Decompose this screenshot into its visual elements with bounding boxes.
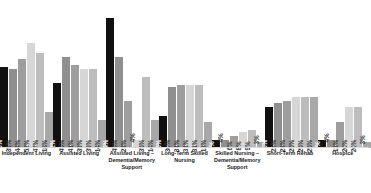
bar[interactable]: 47% [36, 53, 44, 148]
bar[interactable]: 41% [71, 65, 79, 148]
bar-group: 4%4%6%8%9%3% [212, 6, 265, 148]
bar[interactable]: 45% [115, 57, 123, 148]
bar-slot: 35% [142, 6, 150, 148]
bar-slot: 39% [9, 6, 17, 148]
bar[interactable]: 39% [89, 69, 97, 148]
bar[interactable]: 35% [142, 77, 150, 148]
bar-value-label: 4% [217, 133, 225, 142]
bar-slot: 3% [257, 6, 265, 148]
bar-slot: 45% [115, 6, 123, 148]
bar-slot: 31% [186, 6, 194, 148]
bar-slot: 40% [0, 6, 8, 148]
bar[interactable]: 39% [9, 69, 17, 148]
bar-slot: 31% [195, 6, 203, 148]
bar-slot: 30% [168, 6, 176, 148]
bar-slot: 39% [80, 6, 88, 148]
bar[interactable]: 25% [310, 97, 318, 148]
bar-group: 64%45%23%4%35%14% [106, 6, 159, 148]
bar-group: 40%39%44%52%47%18% [0, 6, 53, 148]
bar-slot: 32% [53, 6, 61, 148]
bar-slot: 22% [274, 6, 282, 148]
bar[interactable]: 40% [0, 67, 8, 148]
bar-slot: 3% [363, 6, 371, 148]
bar-value-label: 4% [323, 133, 331, 142]
bar[interactable]: 44% [18, 59, 26, 148]
bar-slot: 47% [36, 6, 44, 148]
bar-slot: 4% [327, 6, 335, 148]
plot-area: 40%39%44%52%47%18%32%45%41%39%39%14%64%4… [0, 6, 369, 148]
bar-slot: 25% [310, 6, 318, 148]
bar-slot: 23% [124, 6, 132, 148]
category-label: Long-Term Skilled Nursing [158, 150, 211, 193]
bar[interactable]: 31% [186, 85, 194, 148]
bar[interactable]: 31% [195, 85, 203, 148]
category-label: Hospice [316, 150, 369, 193]
bar-slot: 4% [212, 6, 220, 148]
bar-slot: 39% [89, 6, 97, 148]
bar-value-label: 3% [359, 135, 367, 144]
category-axis-labels: Independent LivingAssisted LivingAssiste… [0, 150, 369, 193]
bar-slot: 23% [283, 6, 291, 148]
bar-group: 4%4%13%20%20%3% [318, 6, 371, 148]
bar-slot: 20% [354, 6, 362, 148]
category-label: Short-Term Rehab [264, 150, 317, 193]
bar-slot: 20% [265, 6, 273, 148]
bar-slot: 31% [177, 6, 185, 148]
bar-slot: 45% [62, 6, 70, 148]
category-label: Assisted Living [53, 150, 106, 193]
bar-slot: 8% [239, 6, 247, 148]
bar-slot: 14% [151, 6, 159, 148]
bar-slot: 4% [133, 6, 141, 148]
bar-slot: 14% [98, 6, 106, 148]
bar[interactable]: 64% [106, 18, 114, 148]
bar-slot: 9% [248, 6, 256, 148]
bar-slot: 4% [318, 6, 326, 148]
category-label: Skilled Nursing – Dementia/Memory Suppor… [211, 150, 264, 193]
bar[interactable]: 31% [177, 85, 185, 148]
bar-slot: 4% [221, 6, 229, 148]
category-label: Assisted Living – Dementia/Memory Suppor… [105, 150, 158, 193]
bar-slot: 64% [106, 6, 114, 148]
bar[interactable]: 39% [80, 69, 88, 148]
bar[interactable]: 52% [27, 43, 35, 148]
bar-slot: 41% [71, 6, 79, 148]
category-label: Independent Living [0, 150, 53, 193]
bar-group: 32%45%41%39%39%14% [53, 6, 106, 148]
bar-value-label: 4% [129, 133, 137, 142]
bar-slot: 13% [204, 6, 212, 148]
bar[interactable]: 45% [62, 57, 70, 148]
bar-slot: 6% [230, 6, 238, 148]
bar-slot: 13% [336, 6, 344, 148]
bar-slot: 52% [27, 6, 35, 148]
bar-slot: 25% [301, 6, 309, 148]
bar-slot: 18% [45, 6, 53, 148]
bar-group: 20%22%23%25%25%25% [265, 6, 318, 148]
bar-slot: 25% [292, 6, 300, 148]
bar[interactable]: 32% [53, 83, 61, 148]
bar-value-label: 3% [253, 135, 261, 144]
bar-slot: 44% [18, 6, 26, 148]
x-axis-line [0, 147, 369, 148]
bar-slot: 20% [345, 6, 353, 148]
bar-group: 16%30%31%31%31%13% [159, 6, 212, 148]
bar-slot: 16% [159, 6, 167, 148]
